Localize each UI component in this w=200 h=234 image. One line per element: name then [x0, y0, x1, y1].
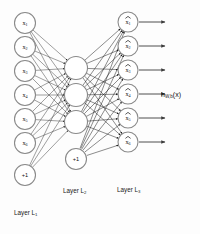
node-input-6[interactable]: x6: [15, 133, 36, 154]
bias-label: +1: [22, 172, 28, 178]
layer-label-input: Layer L1: [14, 209, 38, 217]
bias-label: +1: [73, 156, 79, 162]
neural-network-svg: x1x2x3x4x5x6+1+1x1x2x3x4x5x6 Layer L1Lay…: [0, 0, 200, 234]
node-input-5[interactable]: x5: [15, 109, 36, 130]
output-arrow-group: [139, 22, 165, 142]
node-input-4[interactable]: x4: [15, 85, 36, 106]
bias-node-hidden[interactable]: +1: [66, 149, 87, 170]
node-hidden-1[interactable]: [65, 57, 88, 80]
node-input-2[interactable]: x2: [15, 37, 36, 58]
node-output-1[interactable]: x1: [118, 12, 138, 32]
node-input-3[interactable]: x3: [15, 61, 36, 82]
bias-node-input[interactable]: +1: [15, 165, 36, 186]
layer-label-hidden: Layer L2: [63, 187, 87, 195]
hypothesis-label: hW,b(x): [161, 91, 181, 99]
node-output-2[interactable]: x2: [118, 36, 138, 56]
node-hidden-3[interactable]: [65, 111, 88, 134]
layer-label-group: Layer L1Layer L2Layer L3: [14, 186, 141, 217]
layer-label-output: Layer L3: [117, 186, 141, 194]
node-output-3[interactable]: x3: [118, 60, 138, 80]
diagram-canvas: x1x2x3x4x5x6+1+1x1x2x3x4x5x6 Layer L1Lay…: [0, 0, 200, 234]
node-output-6[interactable]: x6: [118, 132, 138, 152]
node-hidden-2[interactable]: [65, 84, 88, 107]
hypothesis-label-group: hW,b(x): [161, 91, 181, 99]
node-input-1[interactable]: x1: [15, 13, 36, 34]
node-output-4[interactable]: x4: [118, 84, 138, 104]
node-output-5[interactable]: x5: [118, 108, 138, 128]
